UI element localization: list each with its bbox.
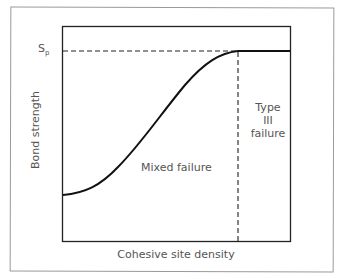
type3-line3: failure [244, 127, 292, 140]
type3-line1: Type [244, 101, 292, 114]
type-iii-failure-label: Type III failure [244, 101, 292, 140]
type3-line2: III [244, 114, 292, 127]
y-axis-label: Bond strength [29, 91, 42, 169]
plateau-label-main: S [38, 42, 45, 55]
mixed-failure-label: Mixed failure [141, 161, 212, 174]
plateau-label-sub: p [45, 49, 49, 57]
x-axis-label: Cohesive site density [117, 248, 234, 261]
plateau-label: Sp [38, 42, 49, 57]
